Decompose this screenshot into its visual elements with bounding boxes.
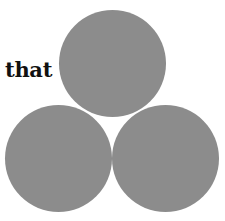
circle-bottom-left: [5, 105, 112, 212]
circle-top: [59, 10, 166, 117]
circle-bottom-right: [112, 105, 219, 212]
label-that: that: [5, 59, 52, 80]
